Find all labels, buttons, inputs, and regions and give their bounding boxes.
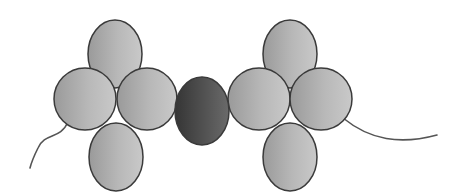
beaded-structure-diagram (0, 0, 457, 193)
right-cluster-bead-left (228, 68, 290, 130)
left-cluster-bead-bottom (89, 123, 143, 191)
center-dark-bead (175, 77, 229, 145)
left-wire-tail (30, 122, 68, 168)
left-cluster-bead-left (54, 68, 116, 130)
right-wire-tail (343, 118, 437, 140)
left-cluster-bead-right (117, 68, 177, 130)
diagram-canvas (0, 0, 457, 193)
bead-group (54, 20, 352, 191)
right-cluster-bead-bottom (263, 123, 317, 191)
right-cluster-bead-right (290, 68, 352, 130)
